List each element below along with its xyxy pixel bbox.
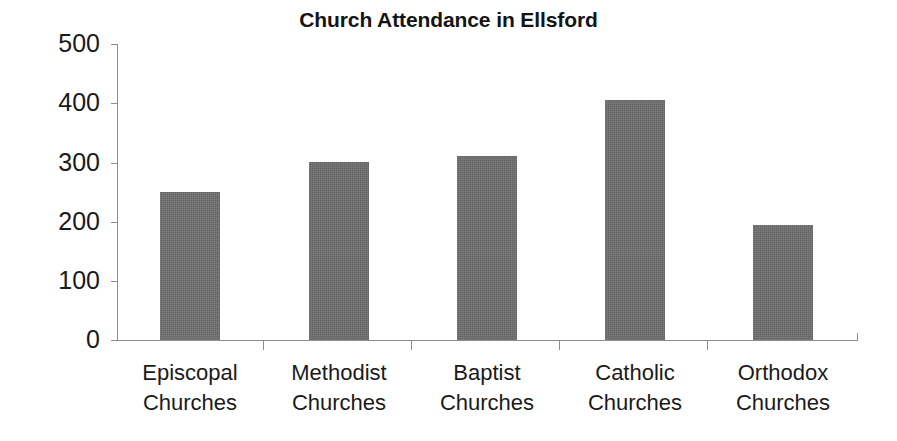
y-axis-tick-200 bbox=[111, 222, 118, 223]
bar-baptist-churches[interactable] bbox=[457, 156, 517, 340]
y-axis-tick-0 bbox=[111, 340, 118, 341]
bar-orthodox-churches[interactable] bbox=[753, 225, 813, 340]
chart-title: Church Attendance in Ellsford bbox=[0, 8, 897, 32]
x-axis-category-label-1: Methodist Churches bbox=[254, 358, 424, 418]
category-label-line1: Orthodox bbox=[698, 358, 868, 388]
category-label-line2: Churches bbox=[402, 388, 572, 418]
category-label-line1: Episcopal bbox=[105, 358, 275, 388]
category-label-line1: Methodist bbox=[254, 358, 424, 388]
y-axis-tick-500 bbox=[111, 44, 118, 45]
x-axis-end-cap bbox=[857, 333, 858, 341]
category-label-line1: Catholic bbox=[550, 358, 720, 388]
bar-methodist-churches[interactable] bbox=[309, 162, 369, 340]
y-axis-tick-100 bbox=[111, 281, 118, 282]
y-axis-label-300: 300 bbox=[0, 150, 100, 175]
bar-catholic-churches[interactable] bbox=[605, 100, 665, 340]
bar-chart: Church Attendance in Ellsford 500 400 30… bbox=[0, 0, 897, 441]
y-axis-label-200: 200 bbox=[0, 209, 100, 234]
category-label-line2: Churches bbox=[254, 388, 424, 418]
category-label-line2: Churches bbox=[698, 388, 868, 418]
x-axis-category-label-3: Catholic Churches bbox=[550, 358, 720, 418]
x-axis-category-label-2: Baptist Churches bbox=[402, 358, 572, 418]
x-axis-tick-1 bbox=[263, 341, 264, 350]
category-label-line2: Churches bbox=[105, 388, 275, 418]
x-axis-category-label-4: Orthodox Churches bbox=[698, 358, 868, 418]
x-axis-tick-3 bbox=[559, 341, 560, 350]
y-axis-tick-300 bbox=[111, 163, 118, 164]
y-axis-label-100: 100 bbox=[0, 268, 100, 293]
bar-episcopal-churches[interactable] bbox=[160, 192, 220, 340]
x-axis-tick-4 bbox=[707, 341, 708, 350]
y-axis-label-400: 400 bbox=[0, 90, 100, 115]
x-axis-line bbox=[117, 340, 858, 341]
y-axis-tick-400 bbox=[111, 103, 118, 104]
y-axis-label-0: 0 bbox=[0, 327, 100, 352]
y-axis-label-500: 500 bbox=[0, 31, 100, 56]
x-axis-tick-2 bbox=[411, 341, 412, 350]
x-axis-category-label-0: Episcopal Churches bbox=[105, 358, 275, 418]
category-label-line1: Baptist bbox=[402, 358, 572, 388]
category-label-line2: Churches bbox=[550, 388, 720, 418]
y-axis-line bbox=[117, 44, 118, 341]
